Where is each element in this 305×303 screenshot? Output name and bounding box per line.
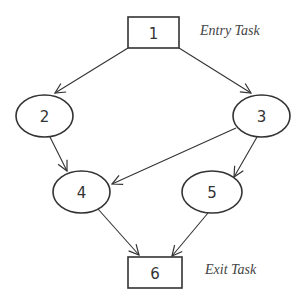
entry-task-label: Entry Task [199, 23, 261, 38]
task-node-1: 1 [128, 17, 179, 48]
task-label-6: 6 [150, 265, 160, 283]
edge-2-to-4 [50, 137, 67, 171]
task-label-1: 1 [149, 25, 159, 43]
edge-1-to-3 [179, 48, 251, 93]
task-label-3: 3 [257, 108, 267, 126]
task-node-3: 3 [233, 95, 290, 137]
task-node-5: 5 [182, 171, 242, 213]
task-node-6: 6 [128, 257, 182, 288]
edge-5-to-6 [172, 213, 208, 256]
task-graph-diagram: 123456 Entry TaskExit Task [0, 0, 305, 303]
annotations-group: Entry TaskExit Task [199, 23, 261, 277]
nodes-group: 123456 [16, 17, 290, 288]
edges-group [50, 48, 257, 256]
task-label-5: 5 [207, 184, 217, 202]
exit-task-label: Exit Task [204, 262, 257, 277]
task-node-2: 2 [16, 95, 73, 137]
edge-4-to-6 [98, 209, 139, 255]
edge-3-to-5 [234, 137, 257, 177]
task-node-4: 4 [53, 171, 110, 213]
task-label-4: 4 [77, 184, 87, 202]
task-label-2: 2 [40, 108, 50, 126]
edge-1-to-2 [55, 48, 128, 93]
